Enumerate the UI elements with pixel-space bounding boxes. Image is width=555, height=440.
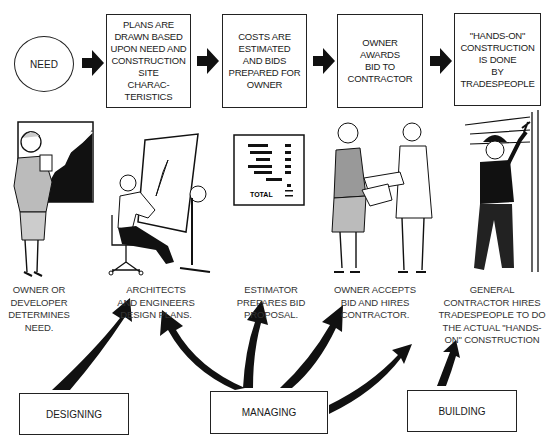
need-circle: NEED [14, 36, 74, 92]
step-box-plans: PLANS ARE DRAWN BASED UPON NEED AND CONS… [106, 14, 191, 108]
step-label: PLANS ARE DRAWN BASED UPON NEED AND CONS… [110, 19, 186, 103]
caption-owner-accepts: OWNER ACCEPTS BID AND HIRES CONTRACTOR. [330, 284, 420, 322]
role-label: MANAGING [242, 407, 296, 418]
flow-arrow-icon [82, 50, 104, 76]
role-box-building: BUILDING [407, 390, 517, 432]
caption-general-contractor: GENERAL CONTRACTOR HIRES TRADESPEOPLE TO… [432, 284, 552, 347]
owner-at-chart-illustration [14, 122, 93, 276]
caption-estimator: ESTIMATOR PREPARES BID PROPOSAL. [226, 284, 316, 322]
flow-arrow-icon [197, 48, 219, 74]
need-label: NEED [30, 59, 58, 70]
role-label: BUILDING [438, 406, 485, 417]
step-box-award: OWNER AWARDS BID TO CONTRACTOR [337, 14, 423, 108]
architect-illustration [109, 134, 210, 275]
role-box-managing: MANAGING [210, 391, 328, 434]
step-box-costs: COSTS ARE ESTIMATED AND BIDS PREPARED FO… [222, 14, 307, 108]
bid-proposal-illustration: TOTAL [234, 135, 304, 205]
role-box-designing: DESIGNING [19, 393, 129, 435]
tradesperson-illustration [465, 110, 538, 272]
arrow-managing-to-architects-icon [160, 310, 245, 390]
sheet-total-label: TOTAL [250, 191, 273, 198]
step-label: "HANDS-ON" CONSTRUCTION IS DONE BY TRADE… [460, 30, 534, 90]
arrow-building-to-tradespeople-icon [437, 340, 460, 386]
caption-owner: OWNER OR DEVELOPER DETERMINES NEED. [5, 284, 73, 334]
caption-architects: ARCHITECTS AND ENGINEERS DESIGN PLANS. [106, 284, 206, 322]
handshake-illustration [332, 123, 432, 272]
arrow-managing-to-contractor-icon [329, 344, 412, 414]
role-label: DESIGNING [46, 409, 102, 420]
flow-arrow-icon [313, 48, 335, 74]
step-box-construction: "HANDS-ON" CONSTRUCTION IS DONE BY TRADE… [454, 13, 541, 106]
step-label: OWNER AWARDS BID TO CONTRACTOR [348, 37, 413, 85]
flow-arrow-icon [430, 48, 452, 74]
step-label: COSTS ARE ESTIMATED AND BIDS PREPARED FO… [229, 31, 301, 91]
